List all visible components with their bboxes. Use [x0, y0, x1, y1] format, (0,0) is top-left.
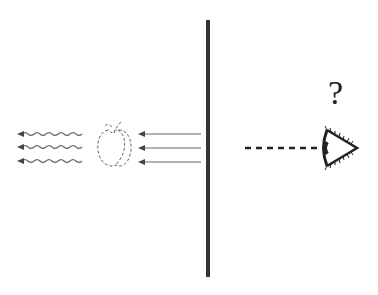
- apple-icon: [98, 122, 131, 166]
- wavy-ray-arrow-icon: [22, 146, 82, 149]
- incoming-light-rays: [138, 131, 201, 165]
- wavy-ray-arrow-icon: [22, 160, 82, 163]
- question-mark-label: ?: [328, 76, 343, 110]
- eye-icon: [324, 126, 358, 170]
- wavy-ray-arrow-icon: [22, 133, 82, 136]
- diagram-canvas: [0, 0, 378, 295]
- reflected-light-rays: [17, 131, 82, 164]
